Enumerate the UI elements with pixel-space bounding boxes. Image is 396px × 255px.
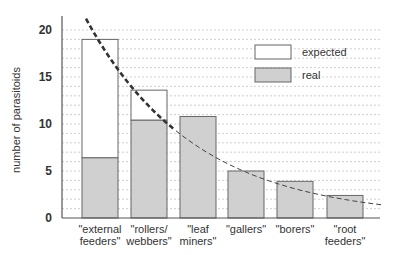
- x-tick-label: "rollers/: [131, 223, 169, 235]
- legend-swatch-real: [255, 68, 291, 82]
- x-tick-labels: "externalfeeders""rollers/webbers""leafm…: [78, 223, 365, 247]
- x-tick-label: "gallers": [226, 223, 266, 235]
- bar-real: [277, 181, 313, 218]
- legend-label-real: real: [302, 69, 320, 81]
- bar-real: [327, 195, 363, 218]
- legend-swatch-expected: [255, 45, 291, 59]
- bar-real: [180, 116, 216, 218]
- bar-expected: [82, 39, 118, 157]
- y-tick-label: 0: [45, 211, 52, 225]
- y-tick-label: 15: [39, 70, 53, 84]
- y-axis-label: number of parasitoids: [10, 67, 22, 173]
- y-tick-label: 5: [45, 164, 52, 178]
- x-tick-label: "borers": [276, 223, 315, 235]
- bar-real: [131, 120, 167, 218]
- x-tick-label: "leaf: [187, 223, 210, 235]
- chart-canvas: 05101520 number of parasitoids "external…: [0, 0, 396, 255]
- x-tick-label: miners": [180, 235, 217, 247]
- legend: expected real: [255, 45, 347, 82]
- x-tick-label: "external: [78, 223, 121, 235]
- bar-chart: 05101520 number of parasitoids "external…: [0, 0, 396, 255]
- y-tick-label: 10: [39, 117, 53, 131]
- bars: [82, 39, 363, 218]
- y-tick-labels: 05101520: [39, 23, 53, 225]
- y-tick-label: 20: [39, 23, 53, 37]
- legend-label-expected: expected: [302, 46, 347, 58]
- bar-real: [82, 158, 118, 218]
- x-tick-label: feeders": [325, 235, 366, 247]
- x-tick-label: webbers": [125, 235, 172, 247]
- bar-real: [228, 171, 264, 218]
- x-tick-label: feeders": [80, 235, 121, 247]
- x-tick-label: "root: [334, 223, 357, 235]
